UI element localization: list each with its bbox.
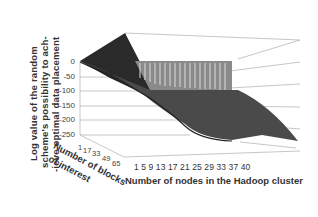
z-tick: 65	[112, 159, 120, 168]
x-axis-title: Number of nodes in the Hadoop cluster	[125, 175, 303, 186]
surface-chart: Log value of the random scheme's possibi…	[0, 0, 318, 217]
y-tick: -200	[47, 115, 75, 124]
x-tick-labels: 1 5 9 13 17 21 25 29 33 37 40	[134, 162, 250, 172]
z-tick: 49	[102, 154, 110, 163]
y-tick: -250	[47, 130, 75, 139]
y-tick: 0	[47, 57, 75, 66]
y-tick: -50	[47, 72, 75, 81]
y-tick: -100	[47, 86, 75, 95]
z-tick: 33	[92, 149, 100, 158]
y-axis-title-line-1: Log value of the random	[28, 46, 39, 161]
y-tick: -150	[47, 101, 75, 110]
